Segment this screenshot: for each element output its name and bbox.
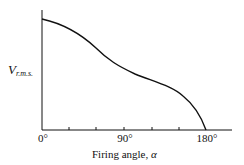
- x-tick-label-90: 90°: [117, 132, 132, 144]
- x-axis-label: Firing angle, α: [92, 148, 157, 160]
- vrms-curve: [42, 19, 206, 130]
- x-tick-label-180: 180°: [197, 132, 218, 144]
- y-axis-label: Vr.m.s.: [8, 62, 33, 78]
- x-tick-label-0: 0°: [38, 132, 48, 144]
